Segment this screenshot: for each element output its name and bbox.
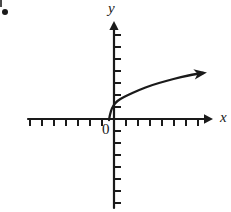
x-axis-arrowhead xyxy=(204,114,213,124)
plotted-curve xyxy=(109,73,203,120)
graph-figure: y x 0 xyxy=(0,0,231,212)
y-axis-label: y xyxy=(108,1,115,16)
plotted-curve-group xyxy=(109,69,207,120)
origin-label: 0 xyxy=(102,122,110,137)
y-axis-arrowhead xyxy=(109,21,118,30)
x-axis-group xyxy=(28,114,213,126)
x-axis-label: x xyxy=(220,110,227,125)
graph-canvas xyxy=(0,0,231,212)
